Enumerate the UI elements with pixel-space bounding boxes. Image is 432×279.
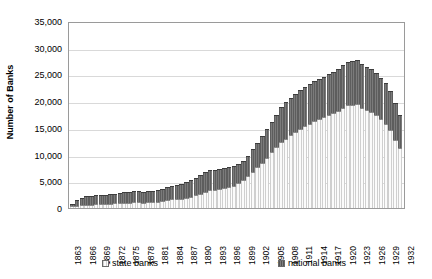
bar-column — [336, 23, 340, 208]
bar-segment-national-banks — [122, 192, 126, 203]
bar-column — [108, 23, 112, 208]
bar-column — [384, 23, 388, 208]
bar-column — [270, 23, 274, 208]
bar-segment-national-banks — [327, 74, 331, 115]
bar-segment-national-banks — [384, 83, 388, 123]
bar-segment-national-banks — [341, 65, 345, 108]
bar-segment-national-banks — [118, 193, 122, 203]
bar-segment-state-banks — [84, 205, 88, 208]
bar-column — [137, 23, 141, 208]
bar-column — [84, 23, 88, 208]
bar-segment-national-banks — [388, 91, 392, 130]
bar-segment-national-banks — [108, 194, 112, 203]
bar-segment-national-banks — [184, 182, 188, 198]
legend-label-national-banks: national banks — [288, 258, 346, 268]
bar-segment-state-banks — [336, 111, 340, 208]
bar-segment-state-banks — [141, 203, 145, 208]
bar-column — [113, 23, 117, 208]
bar-segment-state-banks — [346, 105, 350, 208]
bar-segment-national-banks — [379, 78, 383, 119]
bar-segment-state-banks — [379, 119, 383, 208]
bar-segment-state-banks — [203, 192, 207, 208]
legend-label-state-banks: state banks — [112, 258, 158, 268]
bar-segment-national-banks — [156, 190, 160, 201]
bar-segment-national-banks — [284, 102, 288, 138]
bar-segment-state-banks — [322, 117, 326, 208]
bar-segment-state-banks — [160, 201, 164, 208]
bar-column — [327, 23, 331, 208]
bar-segment-national-banks — [103, 195, 107, 204]
bar-column — [346, 23, 350, 208]
bar-segment-state-banks — [194, 195, 198, 208]
bar-segment-national-banks — [251, 149, 255, 171]
bar-segment-state-banks — [369, 112, 373, 208]
bar-column — [165, 23, 169, 208]
bar-segment-state-banks — [327, 115, 331, 208]
legend-item-state-banks: state banks — [102, 258, 158, 268]
bar-segment-state-banks — [350, 105, 354, 208]
bar-segment-national-banks — [179, 184, 183, 199]
bar-segment-national-banks — [99, 195, 103, 204]
bar-column — [369, 23, 373, 208]
bar-segment-state-banks — [118, 203, 122, 208]
plot-area — [68, 22, 405, 209]
bar-column — [118, 23, 122, 208]
bar-column — [274, 23, 278, 208]
bar-column — [398, 23, 402, 208]
bar-column — [132, 23, 136, 208]
bar-segment-national-banks — [374, 73, 378, 115]
bar-segment-state-banks — [179, 199, 183, 208]
bar-segment-state-banks — [293, 132, 297, 208]
bar-column — [365, 23, 369, 208]
bar-segment-national-banks — [227, 167, 231, 187]
bar-segment-national-banks — [241, 161, 245, 180]
bar-column — [289, 23, 293, 208]
bar-segment-state-banks — [374, 115, 378, 208]
bar-segment-national-banks — [160, 189, 164, 201]
bar-segment-national-banks — [369, 69, 373, 112]
bar-segment-state-banks — [246, 176, 250, 208]
bar-segment-national-banks — [289, 98, 293, 135]
bar-segment-state-banks — [365, 110, 369, 208]
bar-column — [379, 23, 383, 208]
bar-segment-national-banks — [355, 60, 359, 104]
bar-column — [122, 23, 126, 208]
bar-segment-state-banks — [360, 108, 364, 208]
bar-segment-state-banks — [184, 198, 188, 208]
bar-segment-national-banks — [336, 69, 340, 111]
bank-count-chart: Number of Banks 35,00030,00025,00020,000… — [0, 0, 432, 279]
bar-column — [284, 23, 288, 208]
bar-segment-national-banks — [303, 87, 307, 126]
bar-segment-national-banks — [232, 166, 236, 185]
bar-column — [360, 23, 364, 208]
bar-segment-state-banks — [156, 202, 160, 208]
bar-segment-state-banks — [165, 200, 169, 208]
bar-column — [246, 23, 250, 208]
bar-segment-state-banks — [89, 205, 93, 208]
bar-segment-state-banks — [241, 180, 245, 208]
bar-column — [217, 23, 221, 208]
bar-segment-national-banks — [165, 187, 169, 200]
bar-segment-state-banks — [331, 113, 335, 208]
bar-column — [298, 23, 302, 208]
bar-segment-state-banks — [289, 135, 293, 208]
bar-column — [194, 23, 198, 208]
bar-column — [374, 23, 378, 208]
y-axis-tick-label: 0 — [57, 205, 62, 214]
bar-segment-national-banks — [260, 136, 264, 162]
bar-segment-national-banks — [151, 191, 155, 202]
bar-column — [341, 23, 345, 208]
bar-column — [94, 23, 98, 208]
bar-segment-state-banks — [189, 197, 193, 208]
bar-segment-national-banks — [279, 107, 283, 141]
bar-segment-state-banks — [308, 124, 312, 208]
bar-segment-state-banks — [103, 204, 107, 208]
bar-column — [184, 23, 188, 208]
y-axis-tick-label: 35,000 — [34, 18, 62, 27]
bar-segment-national-banks — [198, 175, 202, 194]
bar-column — [170, 23, 174, 208]
x-axis-tick-label: 1932 — [407, 246, 416, 265]
bar-segment-state-banks — [108, 204, 112, 208]
bar-segment-state-banks — [303, 126, 307, 208]
y-axis-tick-label: 10,000 — [34, 152, 62, 161]
